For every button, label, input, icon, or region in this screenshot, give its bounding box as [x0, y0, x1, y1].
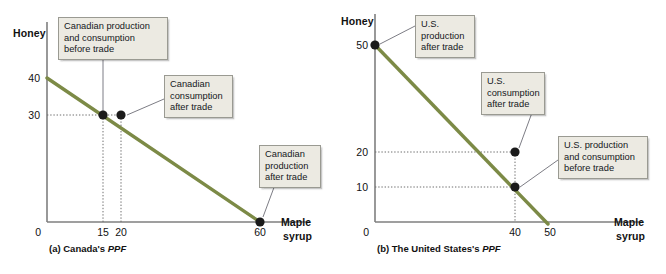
canada-x-tick-15: 15 [93, 226, 113, 238]
canada-x-axis-title-line1: Maple [281, 216, 311, 228]
us-y-tick-10: 10 [342, 181, 368, 193]
canada-point-consumption-after-trade [116, 110, 125, 119]
canada-y-tick-30: 30 [14, 109, 40, 121]
canada-caption-prefix: (a) Canada's [49, 243, 108, 254]
ppf-comparison-figure: Honey Maple syrup 40 30 0 15 20 60 Canad… [0, 0, 666, 274]
us-y-tick-20: 20 [342, 146, 368, 158]
us-leader-before-trade [520, 160, 558, 187]
canada-y-axis-title: Honey [13, 27, 46, 39]
canada-panel-caption: (a) Canada's PPF [49, 243, 126, 254]
us-x-tick-40: 40 [505, 226, 525, 238]
us-point-before-trade [510, 182, 519, 191]
us-x-tick-50: 50 [540, 226, 560, 238]
panel-us-ppf: Honey Maple syrup 50 20 10 0 40 50 U.S. … [333, 0, 666, 274]
us-x-axis-title-line1: Maple [614, 216, 644, 228]
us-leader-production-after-trade [380, 26, 415, 44]
panel-canada-ppf: Honey Maple syrup 40 30 0 15 20 60 Canad… [0, 0, 333, 274]
callout-us-consumption-after-trade: U.S. consumption after trade [481, 72, 545, 115]
canada-point-before-trade [98, 110, 107, 119]
us-point-consumption-after-trade [510, 147, 519, 156]
us-caption-prefix: (b) The United States's [377, 243, 482, 254]
canada-caption-italic: PPF [108, 243, 126, 254]
callout-us-production-after-trade: U.S. production after trade [415, 15, 475, 58]
callout-canada-consumption-after-trade: Canadian consumption after trade [164, 75, 233, 118]
us-point-production-after-trade [370, 40, 379, 49]
us-x-axis-title-line2: syrup [616, 230, 645, 242]
us-panel-caption: (b) The United States's PPF [377, 243, 501, 254]
callout-canada-production-after-trade: Canadian production after trade [259, 145, 321, 188]
canada-leader-consumption-after-trade [127, 99, 164, 115]
us-y-axis-title: Honey [341, 15, 374, 27]
canada-x-tick-60: 60 [250, 226, 270, 238]
callout-us-before-trade: U.S. production and consumption before t… [558, 136, 648, 179]
us-y-tick-50: 50 [342, 39, 368, 51]
us-leader-consumption-after-trade [519, 110, 533, 148]
canada-x-axis-title-line2: syrup [283, 230, 312, 242]
us-origin-label: 0 [357, 226, 369, 238]
canada-x-tick-20: 20 [111, 226, 131, 238]
us-caption-italic: PPF [482, 243, 500, 254]
canada-y-tick-40: 40 [14, 72, 40, 84]
callout-canada-before-trade: Canadian production and consumption befo… [58, 17, 168, 60]
canada-origin-label: 0 [29, 226, 41, 238]
